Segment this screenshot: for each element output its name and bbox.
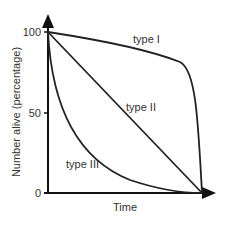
- y-axis-label: Number alive (percentage): [10, 47, 22, 177]
- ytick-0-label: 0: [35, 187, 41, 199]
- series-type-ii-label: type II: [126, 101, 156, 113]
- series-type-iii-label: type III: [66, 158, 99, 170]
- ytick-100-label: 100: [23, 26, 41, 38]
- x-axis-arrow-icon: [202, 187, 216, 199]
- survivorship-chart: 100 50 0 Number alive (percentage) Time …: [0, 0, 226, 228]
- ytick-50-label: 50: [29, 107, 41, 119]
- x-axis-label: Time: [113, 201, 137, 213]
- series-type-i-label: type I: [133, 33, 160, 45]
- y-axis-arrow-icon: [42, 14, 54, 28]
